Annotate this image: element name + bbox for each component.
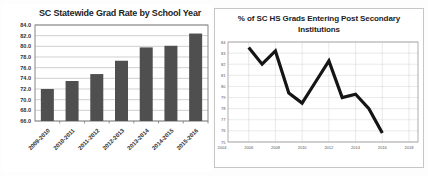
postsecondary-chart-title: % of SC HS Grads Entering Post Secondary… (230, 14, 408, 36)
x-tick-label: 2018 (405, 145, 415, 150)
x-tick-label: 2010-2011 (52, 127, 76, 151)
y-tick-label: 82 (221, 61, 226, 66)
y-tick-label: 76 (221, 128, 226, 133)
y-tick-label: 80.0 (20, 43, 31, 49)
bar (90, 74, 103, 121)
x-tick-label: 2014-2015 (151, 127, 175, 151)
y-tick-label: 84 (221, 39, 226, 44)
bar (66, 81, 79, 121)
y-tick-label: 79 (221, 95, 226, 100)
y-tick-label: 70.0 (20, 97, 31, 103)
bar (115, 61, 128, 121)
y-tick-label: 81 (221, 72, 226, 77)
bar (189, 34, 202, 121)
y-tick-label: 80 (221, 84, 226, 89)
y-tick-label: 82.0 (20, 33, 31, 39)
data-line (249, 47, 383, 133)
x-tick-label: 2012-2013 (101, 127, 125, 151)
bar (140, 47, 153, 121)
x-tick-label: 2016 (378, 145, 388, 150)
x-tick-label: 2010 (298, 145, 308, 150)
y-tick-label: 78 (221, 106, 226, 111)
postsecondary-line-plot: 8483828180797877767520042006200820102012… (215, 36, 423, 162)
grad-rate-chart-title: SC Statewide Grad Rate by School Year (28, 8, 212, 18)
x-tick-label: 2006 (244, 145, 254, 150)
screenshot-root: |||||||| SC Statewide Grad Rate by Schoo… (0, 0, 428, 176)
y-tick-label: 74.0 (20, 75, 31, 81)
x-tick-label: 2015-2016 (175, 127, 199, 151)
postsecondary-chart: % of SC HS Grads Entering Post Secondary… (214, 8, 424, 168)
bar (164, 46, 177, 121)
y-tick-label: 68.0 (20, 107, 31, 113)
y-tick-label: 66.0 (20, 118, 31, 124)
grad-rate-bar-plot: 84.082.080.078.076.074.072.070.068.066.0… (2, 18, 212, 170)
x-tick-label: 2008 (271, 145, 281, 150)
x-tick-label: 2011-2012 (77, 127, 101, 151)
y-tick-label: 77 (221, 117, 226, 122)
y-tick-label: 76.0 (20, 65, 31, 71)
y-tick-label: 72.0 (20, 86, 31, 92)
x-tick-label: 2012 (324, 145, 334, 150)
y-tick-label: 75 (221, 139, 226, 144)
y-tick-label: 83 (221, 50, 226, 55)
x-tick-label: 2014 (351, 145, 361, 150)
grad-rate-chart: SC Statewide Grad Rate by School Year 84… (2, 4, 212, 172)
y-tick-label: 84.0 (20, 22, 31, 28)
x-tick-label: 2009-2010 (27, 127, 51, 151)
bar (41, 89, 54, 121)
x-tick-label: 2004 (218, 145, 228, 150)
x-tick-label: 2013-2014 (126, 127, 150, 151)
y-tick-label: 78.0 (20, 54, 31, 60)
